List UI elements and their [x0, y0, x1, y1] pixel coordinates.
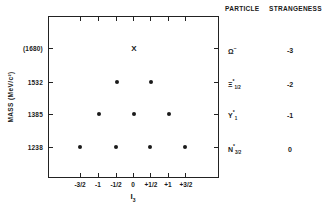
data-point-delta: [114, 145, 118, 149]
particle-superscript: *: [233, 143, 235, 149]
x-tick-bottom: [150, 173, 151, 178]
strangeness-value: -1: [283, 112, 297, 119]
x-tick-label: 0: [131, 181, 135, 188]
plot-frame: [48, 16, 219, 178]
strangeness-value: -2: [283, 81, 297, 88]
x-tick-bottom: [98, 173, 99, 178]
data-point-sigma: [97, 112, 101, 116]
x-tick-bottom: [80, 173, 81, 178]
particle-subscript: 1/2: [234, 85, 240, 90]
y-tick-right-1532: [214, 82, 219, 83]
x-axis-title-sub: 3: [133, 197, 136, 203]
data-point-delta: [148, 145, 152, 149]
data-point-delta: [183, 145, 187, 149]
x-tick-label: -1/2: [110, 181, 121, 188]
y-tick-left-1238: [48, 147, 53, 148]
particle-superscript: *: [233, 109, 235, 115]
x-tick-label: +1: [164, 181, 171, 188]
x-tick-top: [116, 16, 117, 21]
y-tick-left-1680: [48, 48, 53, 49]
y-tick-left-1532: [48, 82, 53, 83]
x-tick-bottom: [185, 173, 186, 178]
x-tick-top: [185, 16, 186, 21]
particle-column-header: PARTICLE: [225, 5, 259, 12]
data-point-sigma: [132, 112, 136, 116]
particle-superscript: *: [233, 78, 235, 84]
x-tick-bottom: [116, 173, 117, 178]
x-axis-title: I3: [130, 192, 135, 203]
y-tick-label: 1238: [13, 144, 43, 151]
data-point-sigma: [167, 112, 171, 116]
particle-label-y: Y*1: [228, 109, 237, 121]
x-tick-label: +3/2: [180, 181, 193, 188]
x-tick-top: [150, 16, 151, 21]
x-tick-bottom: [168, 173, 169, 178]
particle-subscript: 3/2: [235, 150, 241, 155]
x-tick-bottom: [133, 173, 134, 178]
data-point-xi: [149, 80, 153, 84]
particle-subscript: 1: [235, 116, 238, 121]
particle-label-xi: Ξ*1/2: [228, 78, 241, 90]
y-tick-right-1680: [214, 48, 219, 49]
strangeness-column-header: STRANGENESS: [269, 5, 322, 12]
particle-label-n: N*3/2: [228, 143, 241, 155]
y-tick-right-1385: [214, 114, 219, 115]
y-tick-left-1385: [48, 114, 53, 115]
data-point-xi: [115, 80, 119, 84]
particle-label-omega: Ω−: [228, 45, 237, 55]
x-tick-label: -3/2: [74, 181, 85, 188]
y-tick-label: 1532: [13, 79, 43, 86]
x-tick-top: [133, 16, 134, 21]
y-tick-label: 1385: [13, 111, 43, 118]
particle-superscript: −: [234, 45, 237, 51]
y-tick-right-1238: [214, 147, 219, 148]
x-tick-label: -1: [95, 181, 101, 188]
x-tick-top: [98, 16, 99, 21]
x-tick-label: +1/2: [145, 181, 158, 188]
data-point-delta: [78, 145, 82, 149]
strangeness-value: 0: [283, 146, 297, 153]
y-tick-label: (1680): [13, 45, 43, 52]
x-tick-top: [80, 16, 81, 21]
omega-predicted-marker: X: [131, 44, 136, 53]
strangeness-value: -3: [283, 47, 297, 54]
x-tick-top: [168, 16, 169, 21]
